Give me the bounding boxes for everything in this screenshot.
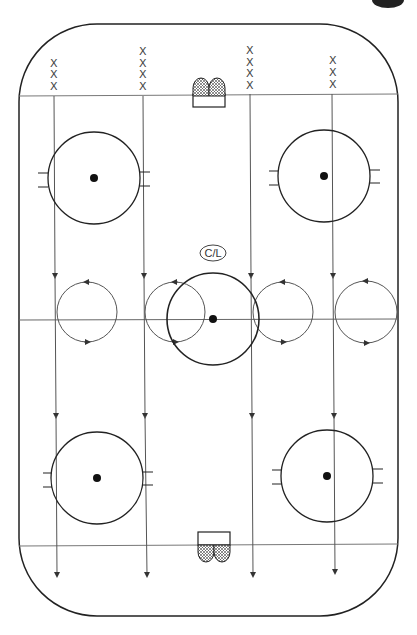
faceoff-circle-bottom-right [272, 430, 383, 522]
faceoff-circle-top-right [269, 130, 380, 222]
top-goal-net [193, 78, 225, 107]
page-tab-marker [372, 0, 404, 8]
svg-text:X: X [50, 80, 58, 93]
bottom-goal-net [198, 532, 230, 562]
svg-text:X: X [246, 79, 254, 92]
center-line-label: C/L [200, 245, 226, 261]
faceoff-circle-bottom-left [43, 432, 153, 524]
svg-text:X: X [329, 78, 337, 91]
player-group-3: XXXX [246, 44, 254, 92]
svg-text:X: X [139, 80, 147, 93]
hockey-rink-diagram: XXX XXXX XXXX XXX [0, 0, 417, 635]
player-group-4: XXX [329, 54, 337, 91]
center-line [19, 319, 398, 320]
skating-loops [57, 281, 397, 343]
player-group-1: XXX [50, 57, 58, 93]
svg-text:C/L: C/L [204, 247, 221, 259]
player-group-2: XXXX [139, 45, 147, 93]
